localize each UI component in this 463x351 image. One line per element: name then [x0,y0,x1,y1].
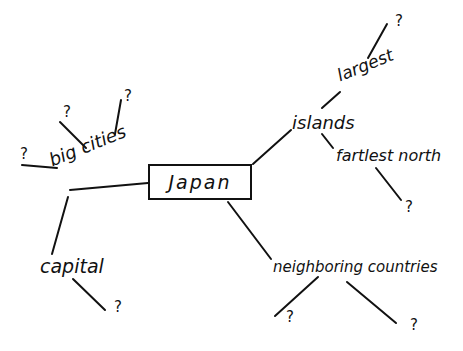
node-big-cities-q1: ? [20,147,28,162]
link-neighboring-q1 [275,277,318,316]
node-fartlest-north-q: ? [405,200,413,215]
central-node-japan: Japan [148,164,252,200]
link-japan-neighboring [228,202,271,259]
mind-map-canvas: Japan big cities ? ? ? capital ? islands… [0,0,463,351]
node-big-cities-q2: ? [63,105,71,120]
central-node-label: Japan [169,171,232,193]
node-islands: islands [292,114,355,132]
link-neighboring-q2 [347,282,396,323]
node-fartlest-north: fartlest north [336,148,441,164]
node-neighboring-q2: ? [410,318,418,333]
link-big-cities-capital [52,197,68,254]
link-japan-islands [253,130,291,164]
link-japan-big-cities [70,183,148,190]
link-fartlest-north-q [376,168,401,200]
link-islands-largest [322,92,340,108]
node-neighboring-q1: ? [286,310,294,325]
node-big-cities-q3: ? [124,89,132,104]
node-capital-q: ? [114,300,122,315]
node-capital: capital [40,257,104,276]
link-islands-fartlest-north [322,134,333,148]
link-capital-q [73,279,105,310]
node-largest-q: ? [395,14,403,29]
node-neighboring-countries: neighboring countries [273,260,437,275]
